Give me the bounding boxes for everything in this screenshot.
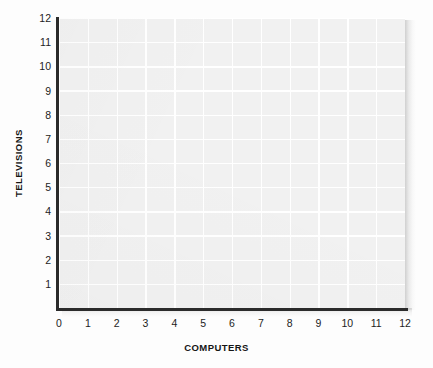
x-axis-tick-label: 11 — [361, 318, 391, 329]
x-axis-tick-label: 5 — [188, 318, 218, 329]
y-axis-tick-label: 1 — [11, 279, 51, 290]
x-axis-tick-label: 8 — [275, 318, 305, 329]
y-axis-tick-label: 4 — [11, 206, 51, 217]
x-axis-tick-label: 2 — [102, 318, 132, 329]
chart-figure: 123456789101112 0123456789101112 COMPUTE… — [0, 0, 433, 368]
x-axis-spine — [56, 308, 408, 311]
gridlines — [59, 18, 405, 308]
x-axis-tick-label: 4 — [159, 318, 189, 329]
y-axis-tick-label: 11 — [11, 37, 51, 48]
y-axis-tick-label: 12 — [11, 13, 51, 24]
y-axis-tick-label: 10 — [11, 61, 51, 72]
y-axis-tick-label: 8 — [11, 110, 51, 121]
x-axis-tick-label: 10 — [332, 318, 362, 329]
y-axis-spine — [56, 17, 59, 311]
x-axis-tick-label: 12 — [390, 318, 420, 329]
y-axis-title: TELEVISIONS — [13, 129, 24, 197]
x-axis-tick-label: 0 — [44, 318, 74, 329]
x-axis-tick-label: 6 — [217, 318, 247, 329]
plot-shadow-right — [405, 20, 416, 310]
x-axis-tick-label: 9 — [304, 318, 334, 329]
y-axis-tick-label: 2 — [11, 255, 51, 266]
x-axis-tick-label: 1 — [73, 318, 103, 329]
y-axis-tick-label: 3 — [11, 231, 51, 242]
y-axis-tick-label: 9 — [11, 86, 51, 97]
plot-area[interactable] — [59, 18, 405, 308]
x-axis-tick-label: 7 — [246, 318, 276, 329]
x-axis-tick-label: 3 — [131, 318, 161, 329]
x-axis-title: COMPUTERS — [0, 342, 433, 353]
